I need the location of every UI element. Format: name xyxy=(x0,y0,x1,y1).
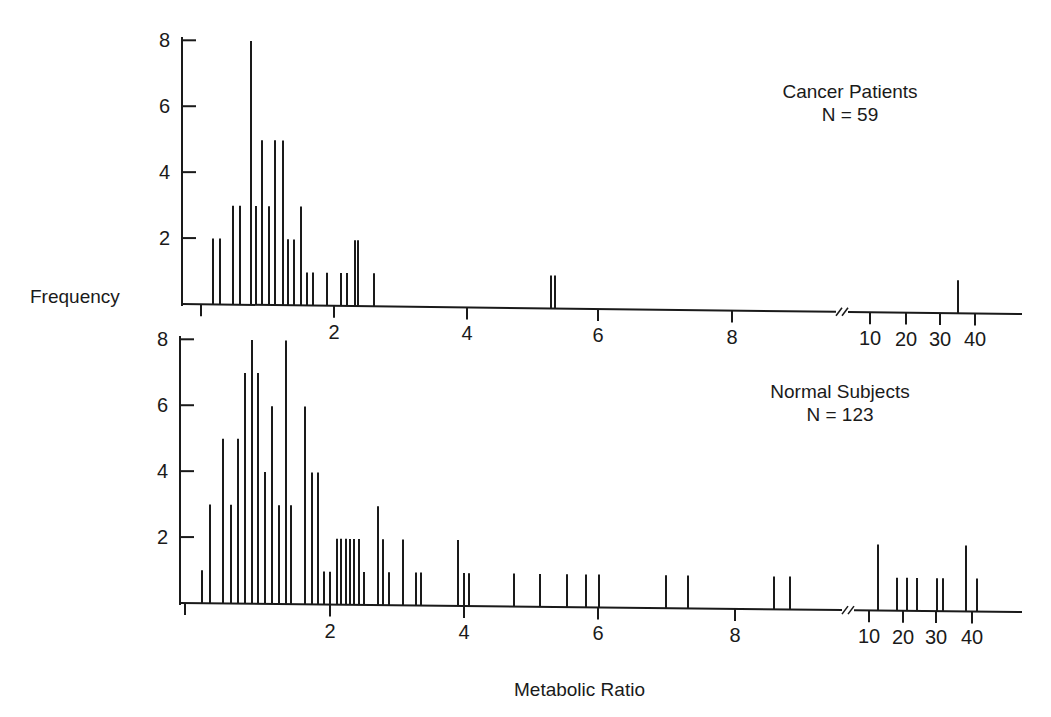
x-tick-label: 30 xyxy=(929,328,951,350)
y-tick-label: 4 xyxy=(159,161,170,183)
y-tick-label: 6 xyxy=(157,394,168,416)
y-tick-label: 8 xyxy=(159,29,170,51)
y-axis-label: Frequency xyxy=(30,286,120,308)
y-tick-label: 6 xyxy=(159,95,170,117)
cancer-patients-histogram: 8642246810203040 xyxy=(159,29,1022,350)
x-tick-label: 8 xyxy=(726,326,737,348)
axis-break-icon xyxy=(842,606,848,614)
x-axis-line xyxy=(180,603,842,610)
axis-break-icon xyxy=(836,308,842,316)
normal-panel-title: Normal Subjects N = 123 xyxy=(730,380,950,426)
x-tick-label: 2 xyxy=(324,620,335,642)
axis-break-icon xyxy=(848,606,854,614)
x-tick-label: 10 xyxy=(858,625,880,647)
normal-group-name: Normal Subjects xyxy=(730,380,950,403)
x-axis-label: Metabolic Ratio xyxy=(514,679,645,701)
x-tick-label: 40 xyxy=(961,626,983,648)
x-tick-label: 6 xyxy=(592,622,603,644)
y-tick-label: 2 xyxy=(157,526,168,548)
x-tick-label: 10 xyxy=(859,327,881,349)
cancer-sample-size: N = 59 xyxy=(740,103,960,126)
x-tick-label: 20 xyxy=(895,328,917,350)
x-tick-label: 8 xyxy=(729,624,740,646)
x-tick-label: 40 xyxy=(964,328,986,350)
normal-sample-size: N = 123 xyxy=(730,403,950,426)
x-axis-line xyxy=(182,304,836,312)
x-tick-label: 20 xyxy=(892,626,914,648)
y-tick-label: 8 xyxy=(157,328,168,350)
x-tick-label: 30 xyxy=(925,626,947,648)
normal-subjects-histogram: 8642246810203040 xyxy=(157,328,1022,648)
x-axis-line-broken-segment xyxy=(848,312,1022,314)
cancer-group-name: Cancer Patients xyxy=(740,80,960,103)
x-tick-label: 2 xyxy=(328,321,339,343)
x-tick-label: 6 xyxy=(592,324,603,346)
y-tick-label: 4 xyxy=(157,460,168,482)
cancer-panel-title: Cancer Patients N = 59 xyxy=(740,80,960,126)
x-tick-label: 4 xyxy=(458,621,469,643)
y-tick-label: 2 xyxy=(159,227,170,249)
axis-break-icon xyxy=(842,308,848,316)
x-tick-label: 4 xyxy=(461,322,472,344)
